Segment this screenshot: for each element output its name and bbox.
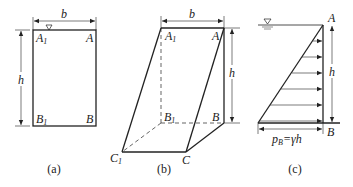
height-label: h bbox=[229, 66, 235, 80]
vertex-label-c1: C1 bbox=[110, 151, 122, 166]
pressure-label: pB=γh bbox=[271, 132, 302, 147]
vertex-label-b: B bbox=[212, 110, 220, 124]
height-label: h bbox=[329, 65, 335, 79]
figure-c: h pB=γh A B (c) bbox=[258, 11, 340, 176]
vertex-label-c: C bbox=[182, 153, 191, 167]
corner-label-a1: A1 bbox=[35, 31, 47, 46]
hydrostatic-pressure-diagram: b h A1 A B1 B (a) b bbox=[0, 0, 353, 187]
height-label: h bbox=[18, 73, 24, 87]
edge-a1-c1 bbox=[122, 28, 161, 152]
caption-c: (c) bbox=[288, 162, 301, 176]
vertex-label-a1: A1 bbox=[164, 29, 176, 44]
corner-label-b1: B1 bbox=[36, 112, 47, 127]
width-label: b bbox=[189, 7, 195, 21]
pressure-hypotenuse bbox=[258, 25, 323, 123]
corner-label-a: A bbox=[85, 31, 94, 45]
width-label: b bbox=[61, 7, 67, 21]
water-level-icon bbox=[46, 25, 52, 30]
caption-b: (b) bbox=[157, 162, 171, 176]
point-label-a: A bbox=[327, 11, 336, 25]
edge-c-b bbox=[186, 123, 224, 152]
point-label-b: B bbox=[327, 125, 335, 139]
edge-a-c bbox=[186, 28, 224, 152]
corner-label-b: B bbox=[86, 112, 94, 126]
hidden-edge-b1-c1 bbox=[122, 123, 161, 152]
caption-a: (a) bbox=[47, 162, 60, 176]
water-level-icon bbox=[264, 19, 271, 24]
vertex-label-b1: B1 bbox=[164, 110, 175, 125]
vertex-label-a: A bbox=[211, 29, 220, 43]
figure-a: b h A1 A B1 B (a) bbox=[15, 7, 96, 176]
figure-b: b h A1 A B1 B C1 C (b) bbox=[110, 7, 240, 176]
